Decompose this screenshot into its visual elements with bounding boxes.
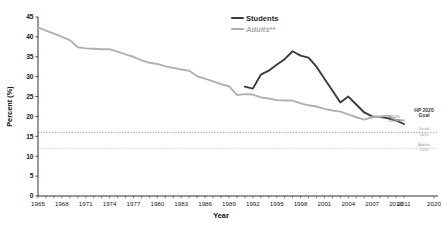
x-tick-label-1986: 1986: [198, 200, 212, 207]
y-tick-label: 5: [30, 172, 34, 179]
y-tick-label: 15: [26, 133, 34, 140]
x-axis-title: Year: [213, 211, 229, 220]
hp2020-goal-title2: Goal: [418, 112, 430, 118]
chart-canvas: 0510152025303540451965196819711974197719…: [0, 0, 448, 226]
y-tick-label: 0: [30, 192, 34, 199]
y-tick-label: 30: [26, 73, 34, 80]
adults-goal-label: Adults: [418, 142, 431, 147]
y-tick-label: 40: [26, 33, 34, 40]
x-tick-label-2001: 2001: [318, 200, 332, 207]
smoking-prevalence-line-chart: 0510152025303540451965196819711974197719…: [0, 0, 448, 226]
x-tick-label-1977: 1977: [127, 200, 141, 207]
x-tick-label-1995: 1995: [270, 200, 284, 207]
x-tick-label-1968: 1968: [55, 200, 69, 207]
series-line-students: [245, 51, 404, 124]
y-tick-label: 45: [26, 13, 34, 20]
youth-goal-value: 16%: [420, 132, 429, 137]
x-tick-label-1965: 1965: [31, 200, 45, 207]
x-tick-label-1974: 1974: [103, 200, 117, 207]
x-tick-label-1983: 1983: [174, 200, 188, 207]
y-axis-title: Percent (%): [5, 86, 14, 127]
x-tick-label-1980: 1980: [150, 200, 164, 207]
x-tick-label-2020: 2020: [427, 200, 441, 207]
series-line-adults: [38, 27, 404, 120]
adults-goal-value: 12%: [420, 147, 429, 152]
legend-label-students: Students: [246, 14, 279, 23]
y-tick-label: 25: [26, 93, 34, 100]
adults-end-label: 19.0%: [388, 114, 400, 119]
legend-label-adults: Adults**: [245, 25, 277, 34]
x-tick-label-1998: 1998: [294, 200, 308, 207]
x-tick-label-2007: 2007: [365, 200, 379, 207]
x-tick-label-1992: 1992: [246, 200, 260, 207]
youth-goal-label: Youth: [418, 126, 430, 131]
x-tick-label-2004: 2004: [341, 200, 355, 207]
x-tick-label-2011: 2011: [397, 200, 411, 207]
y-tick-label: 35: [26, 53, 34, 60]
x-tick-label-1989: 1989: [222, 200, 236, 207]
x-tick-label-1971: 1971: [79, 200, 93, 207]
y-tick-label: 20: [26, 113, 34, 120]
y-tick-label: 10: [26, 153, 34, 160]
